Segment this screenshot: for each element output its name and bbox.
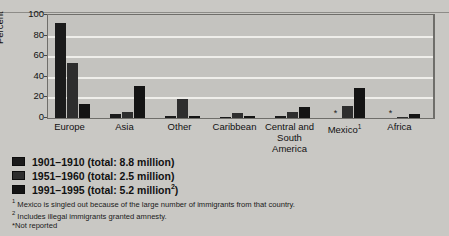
footnote-marker: *: [12, 221, 15, 230]
bar: [165, 116, 177, 118]
legend-swatch: [12, 157, 25, 166]
y-axis-label: Percent: [0, 11, 5, 44]
not-reported-marker: *: [330, 109, 342, 118]
bar: [397, 117, 409, 118]
bar: [134, 86, 146, 118]
bar: [67, 63, 79, 118]
bar-group: [275, 15, 311, 118]
legend-swatch: [12, 185, 25, 194]
chart-footnotes: 1 Mexico is singled out because of the l…: [12, 197, 295, 231]
x-axis-label: Other: [152, 121, 207, 132]
bar: [110, 114, 122, 118]
footnote-marker: 1: [12, 198, 15, 204]
x-axis-label: Mexico1: [317, 121, 372, 135]
legend-label: 1951–1960 (total: 2.5 million): [32, 170, 174, 182]
bar-group: *: [385, 15, 421, 118]
bar: [342, 106, 354, 118]
x-axis-labels: EuropeAsiaOtherCaribbeanCentral and Sout…: [48, 121, 433, 155]
x-axis-label: Central and South America: [262, 121, 317, 154]
footnote-marker: 2: [12, 210, 15, 216]
bar-group: [55, 15, 91, 118]
x-axis-label: Europe: [42, 121, 97, 132]
legend-item: 1991–1995 (total: 5.2 million2): [12, 183, 178, 196]
legend-item: 1951–1960 (total: 2.5 million): [12, 169, 178, 182]
bar-group: [220, 15, 256, 118]
legend-swatch: [12, 171, 25, 180]
x-axis-label: Asia: [97, 121, 152, 132]
bar: [244, 116, 256, 118]
cropped-title-strip: [0, 0, 449, 12]
footnote-ref: 2: [171, 183, 175, 190]
bar: [189, 116, 201, 118]
bar: [299, 107, 311, 118]
legend-label: 1901–1910 (total: 8.8 million): [32, 156, 174, 168]
bar: [287, 112, 299, 118]
y-tick-label: 60: [20, 50, 44, 60]
y-tick-label: 80: [20, 30, 44, 40]
bar: [55, 23, 67, 118]
bar: [122, 112, 134, 118]
not-reported-marker: *: [385, 109, 397, 118]
bar-group: [110, 15, 146, 118]
bar: [409, 114, 421, 118]
bar: [275, 116, 287, 118]
bar-series-container: **: [48, 15, 433, 118]
y-tick-label: 20: [20, 91, 44, 101]
top-rule-divider: [0, 12, 449, 13]
footnote-ref: 1: [358, 123, 362, 130]
bar: [220, 117, 232, 118]
y-axis-ticks: 100806040200: [18, 14, 44, 119]
x-axis-label: Caribbean: [207, 121, 262, 132]
footnote: 1 Mexico is singled out because of the l…: [12, 197, 295, 209]
chart-legend: 1901–1910 (total: 8.8 million)1951–1960 …: [12, 155, 178, 197]
footnote: 2 Includes illegal immigrants granted am…: [12, 209, 295, 221]
footnote: *Not reported: [12, 221, 295, 231]
bar-group: [165, 15, 201, 118]
y-tick-label: 100: [20, 9, 44, 19]
bar-group: *: [330, 15, 366, 118]
bar: [354, 88, 366, 118]
bar: [177, 99, 189, 118]
y-tick-label: 40: [20, 71, 44, 81]
legend-label: 1991–1995 (total: 5.2 million2): [32, 183, 178, 196]
x-axis-label: Africa: [372, 121, 427, 132]
bar: [232, 113, 244, 118]
y-tick-label: 0: [20, 112, 44, 122]
legend-item: 1901–1910 (total: 8.8 million): [12, 155, 178, 168]
bar: [79, 104, 91, 118]
